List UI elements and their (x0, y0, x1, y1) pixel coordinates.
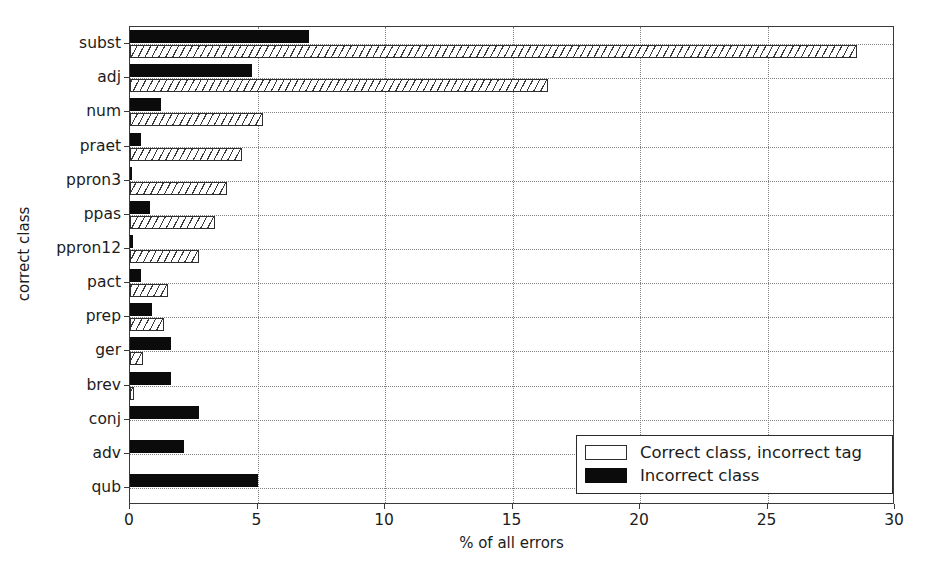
y-tick-mark (124, 419, 129, 420)
gridline-horizontal (130, 147, 893, 148)
gridline-horizontal (130, 283, 893, 284)
bar-incorrect-class (130, 440, 184, 453)
y-tick-label-ppron3: ppron3 (66, 171, 121, 189)
bar-incorrect-class (130, 235, 133, 248)
x-tick-mark (639, 504, 640, 509)
legend-swatch-hatched (585, 445, 627, 460)
bar-correct-class-incorrect-tag (130, 148, 242, 161)
y-tick-label-qub: qub (91, 478, 121, 496)
bar-correct-class-incorrect-tag (130, 79, 548, 92)
x-tick-label: 30 (884, 511, 904, 529)
y-tick-label-conj: conj (89, 410, 121, 428)
x-tick-label: 20 (629, 511, 649, 529)
bar-incorrect-class (130, 30, 309, 43)
x-axis-title: % of all errors (129, 534, 894, 552)
bar-correct-class-incorrect-tag (130, 387, 134, 400)
legend-label-filled: Incorrect class (640, 466, 759, 485)
y-tick-label-brev: brev (86, 376, 121, 394)
bar-chart-figure: correct class substadjnumpraetppron3ppas… (0, 0, 937, 566)
y-tick-label-subst: subst (79, 34, 121, 52)
plot-area (129, 26, 894, 504)
x-tick-label: 15 (502, 511, 522, 529)
y-axis-tick-labels: substadjnumpraetppron3ppasppron12pactpre… (0, 0, 121, 566)
bar-incorrect-class (130, 406, 199, 419)
x-tick-mark (384, 504, 385, 509)
gridline-vertical (258, 27, 259, 503)
y-tick-label-ppron12: ppron12 (56, 239, 121, 257)
y-tick-mark (124, 282, 129, 283)
gridline-vertical (385, 27, 386, 503)
y-tick-mark (124, 453, 129, 454)
bar-incorrect-class (130, 98, 161, 111)
y-tick-label-adv: adv (92, 444, 121, 462)
bar-incorrect-class (130, 167, 132, 180)
y-tick-label-pact: pact (87, 273, 121, 291)
gridline-horizontal (130, 249, 893, 250)
y-tick-mark (124, 385, 129, 386)
bar-correct-class-incorrect-tag (130, 284, 168, 297)
x-tick-label: 0 (124, 511, 134, 529)
bar-correct-class-incorrect-tag (130, 250, 199, 263)
legend-entry-1: Incorrect class (585, 464, 884, 487)
bar-incorrect-class (130, 474, 258, 487)
bar-incorrect-class (130, 269, 141, 282)
y-tick-mark (124, 487, 129, 488)
bar-correct-class-incorrect-tag (130, 113, 263, 126)
gridline-horizontal (130, 351, 893, 352)
bar-correct-class-incorrect-tag (130, 45, 857, 58)
gridline-horizontal (130, 386, 893, 387)
x-tick-mark (767, 504, 768, 509)
bar-incorrect-class (130, 64, 252, 77)
bar-correct-class-incorrect-tag (130, 352, 143, 365)
y-tick-mark (124, 350, 129, 351)
y-tick-label-praet: praet (80, 137, 121, 155)
y-tick-mark (124, 77, 129, 78)
y-tick-label-prep: prep (86, 307, 121, 325)
gridline-vertical (640, 27, 641, 503)
x-tick-label: 5 (252, 511, 262, 529)
y-tick-label-adj: adj (97, 68, 121, 86)
y-tick-mark (124, 43, 129, 44)
legend-entry-0: Correct class, incorrect tag (585, 441, 884, 464)
y-tick-mark (124, 248, 129, 249)
gridline-horizontal (130, 317, 893, 318)
legend-swatch-filled (585, 468, 627, 483)
y-tick-mark (124, 316, 129, 317)
gridline-vertical (768, 27, 769, 503)
legend-label-hatched: Correct class, incorrect tag (640, 443, 862, 462)
x-tick-mark (512, 504, 513, 509)
gridline-horizontal (130, 420, 893, 421)
y-tick-mark (124, 180, 129, 181)
legend: Correct class, incorrect tag Incorrect c… (576, 435, 893, 494)
y-tick-mark (124, 214, 129, 215)
y-tick-label-num: num (86, 102, 121, 120)
x-tick-mark (894, 504, 895, 509)
bar-incorrect-class (130, 303, 152, 316)
y-tick-label-ger: ger (95, 341, 121, 359)
bar-correct-class-incorrect-tag (130, 182, 227, 195)
x-tick-mark (257, 504, 258, 509)
bar-incorrect-class (130, 201, 150, 214)
bar-incorrect-class (130, 133, 141, 146)
bar-incorrect-class (130, 372, 171, 385)
gridline-horizontal (130, 215, 893, 216)
x-tick-label: 25 (757, 511, 777, 529)
gridline-vertical (513, 27, 514, 503)
bar-incorrect-class (130, 337, 171, 350)
x-tick-label: 10 (374, 511, 394, 529)
x-tick-mark (129, 504, 130, 509)
bar-correct-class-incorrect-tag (130, 318, 164, 331)
y-tick-mark (124, 146, 129, 147)
y-tick-label-ppas: ppas (84, 205, 121, 223)
y-tick-mark (124, 111, 129, 112)
bar-correct-class-incorrect-tag (130, 216, 215, 229)
gridline-horizontal (130, 181, 893, 182)
